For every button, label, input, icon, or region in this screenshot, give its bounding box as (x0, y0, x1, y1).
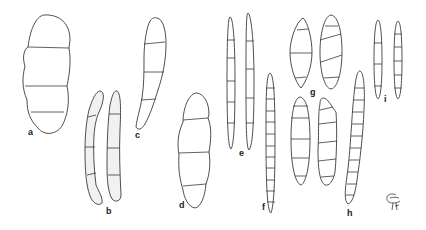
spore-i-1 (374, 20, 382, 99)
spore-f (266, 73, 275, 213)
label-c: c (135, 130, 140, 140)
spore-e-1 (227, 17, 235, 149)
label-a: a (28, 127, 34, 137)
spore-h (345, 71, 364, 204)
label-i: i (384, 94, 387, 104)
label-e: e (239, 148, 244, 158)
spore-g-1 (290, 18, 312, 88)
spore-g-4 (318, 98, 337, 185)
label-b: b (106, 206, 112, 216)
spore-plate: a b c d (0, 0, 426, 230)
spore-d (178, 93, 211, 208)
spore-a (23, 15, 70, 133)
spore-c (136, 18, 166, 130)
label-g: g (310, 87, 316, 97)
spore-g-3 (291, 97, 310, 185)
spore-b-2 (107, 91, 121, 201)
label-f: f (262, 202, 266, 212)
label-h: h (347, 208, 353, 218)
spore-e-2 (246, 13, 254, 150)
spore-i-2 (394, 21, 402, 99)
monogram-logo-icon (387, 194, 400, 210)
label-d: d (179, 200, 185, 210)
spore-b-1 (85, 91, 103, 204)
spore-g-2 (320, 15, 342, 89)
